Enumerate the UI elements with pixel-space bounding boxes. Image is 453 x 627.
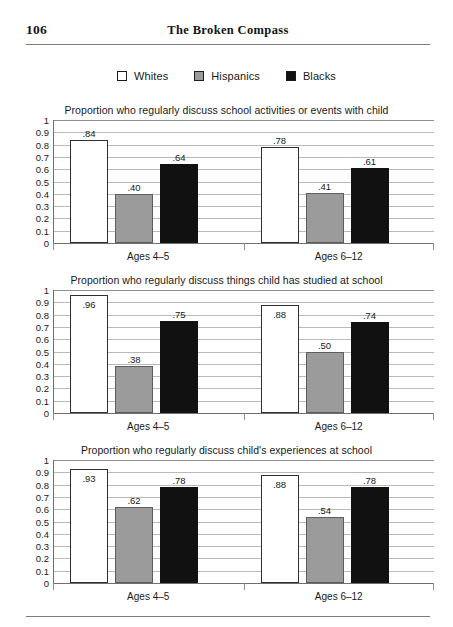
legend-item-whites: Whites — [117, 70, 168, 82]
bar-value-label: .75 — [172, 309, 185, 320]
y-axis-tick-label: 0.8 — [36, 309, 49, 320]
chart-legend: Whites Hispanics Blacks — [0, 70, 453, 82]
bar-whites-ages-6-12 — [261, 305, 299, 413]
gridline — [53, 315, 434, 316]
y-axis-tick-label: 1 — [44, 285, 49, 296]
legend-label-hispanics: Hispanics — [211, 70, 260, 82]
y-axis-tick-label: 0.2 — [36, 383, 49, 394]
y-axis-tick-label: 0 — [44, 578, 49, 589]
legend-item-hispanics: Hispanics — [194, 70, 260, 82]
y-axis-tick-label: 0.6 — [36, 164, 49, 175]
chart-title: Proportion who regularly discuss things … — [0, 274, 453, 286]
y-axis-tick-label: 0.9 — [36, 467, 49, 478]
x-axis-tick — [244, 583, 245, 590]
page-header: 106 The Broken Compass — [26, 22, 430, 42]
y-axis-tick-label: 0.3 — [36, 201, 49, 212]
bar-hispanics-ages-6-12 — [306, 193, 344, 243]
bar-hispanics-ages-4-5 — [115, 507, 153, 583]
bar-whites-ages-4-5 — [70, 140, 108, 243]
y-axis — [53, 460, 54, 583]
bar-value-label: .54 — [318, 505, 331, 516]
bar-value-label: .93 — [82, 473, 95, 484]
running-title: The Broken Compass — [26, 23, 430, 38]
footer-divider — [26, 616, 430, 617]
x-axis-tick — [244, 413, 245, 420]
y-axis-tick-label: 0.7 — [36, 151, 49, 162]
y-axis-tick-label: 0.4 — [36, 528, 49, 539]
x-axis-tick — [53, 243, 54, 250]
bar-value-label: .38 — [127, 354, 140, 365]
bar-whites-ages-4-5 — [70, 469, 108, 583]
y-axis-tick-label: 0.2 — [36, 213, 49, 224]
bar-value-label: .88 — [273, 309, 286, 320]
bar-whites-ages-6-12 — [261, 475, 299, 583]
legend-swatch-whites-icon — [117, 71, 127, 81]
gridline — [53, 485, 434, 486]
bar-hispanics-ages-6-12 — [306, 352, 344, 414]
y-axis — [53, 290, 54, 413]
y-axis-tick-label: 0.9 — [36, 297, 49, 308]
y-axis-tick-label: 0 — [44, 238, 49, 249]
bar-hispanics-ages-4-5 — [115, 194, 153, 243]
x-axis-category-label: Ages 6–12 — [315, 251, 363, 262]
bar-whites-ages-4-5 — [70, 295, 108, 413]
x-axis-category-label: Ages 4–5 — [127, 251, 169, 262]
header-divider — [26, 44, 430, 45]
x-axis-tick — [433, 413, 434, 420]
legend-swatch-hispanics-icon — [194, 71, 204, 81]
legend-label-whites: Whites — [134, 70, 168, 82]
y-axis-tick-label: 0.1 — [36, 395, 49, 406]
plot-area: 00.10.20.30.40.50.60.70.80.91Ages 4–5.84… — [53, 120, 434, 243]
y-axis-tick-label: 0.4 — [36, 358, 49, 369]
x-axis-tick — [53, 583, 54, 590]
bar-value-label: .84 — [82, 128, 95, 139]
x-axis-category-label: Ages 4–5 — [127, 421, 169, 432]
bar-blacks-ages-6-12 — [351, 168, 389, 243]
y-axis-tick-label: 0.1 — [36, 225, 49, 236]
bar-blacks-ages-6-12 — [351, 487, 389, 583]
bar-hispanics-ages-4-5 — [115, 366, 153, 413]
gridline — [53, 290, 434, 291]
gridline — [53, 120, 434, 121]
bar-value-label: .78 — [273, 135, 286, 146]
x-axis-tick — [433, 243, 434, 250]
y-axis-tick-label: 0 — [44, 408, 49, 419]
bar-blacks-ages-4-5 — [160, 321, 198, 413]
x-axis-tick — [53, 413, 54, 420]
gridline — [53, 145, 434, 146]
y-axis-tick-label: 0.5 — [36, 516, 49, 527]
y-axis-tick-label: 0.7 — [36, 491, 49, 502]
plot-area: 00.10.20.30.40.50.60.70.80.91Ages 4–5.96… — [53, 290, 434, 413]
y-axis-tick-label: 1 — [44, 455, 49, 466]
bar-value-label: .62 — [127, 495, 140, 506]
bar-value-label: .41 — [318, 181, 331, 192]
bar-blacks-ages-4-5 — [160, 164, 198, 243]
y-axis-tick-label: 1 — [44, 115, 49, 126]
y-axis-tick-label: 0.5 — [36, 176, 49, 187]
bar-blacks-ages-4-5 — [160, 487, 198, 583]
bar-value-label: .50 — [318, 340, 331, 351]
x-axis-category-label: Ages 4–5 — [127, 591, 169, 602]
bar-value-label: .64 — [172, 152, 185, 163]
plot-area: 00.10.20.30.40.50.60.70.80.91Ages 4–5.93… — [53, 460, 434, 583]
bar-value-label: .78 — [172, 475, 185, 486]
bar-value-label: .40 — [127, 182, 140, 193]
y-axis-tick-label: 0.8 — [36, 139, 49, 150]
legend-label-blacks: Blacks — [303, 70, 336, 82]
gridline — [53, 132, 434, 133]
gridline — [53, 472, 434, 473]
y-axis-tick-label: 0.5 — [36, 346, 49, 357]
y-axis-tick-label: 0.6 — [36, 334, 49, 345]
x-axis-tick — [433, 583, 434, 590]
y-axis-tick-label: 0.3 — [36, 371, 49, 382]
legend-item-blacks: Blacks — [286, 70, 336, 82]
y-axis-tick-label: 0.7 — [36, 321, 49, 332]
gridline — [53, 302, 434, 303]
y-axis-tick-label: 0.4 — [36, 188, 49, 199]
bar-value-label: .88 — [273, 479, 286, 490]
y-axis — [53, 120, 54, 243]
x-axis-tick — [244, 243, 245, 250]
y-axis-tick-label: 0.2 — [36, 553, 49, 564]
bar-value-label: .96 — [82, 299, 95, 310]
bar-hispanics-ages-6-12 — [306, 517, 344, 583]
